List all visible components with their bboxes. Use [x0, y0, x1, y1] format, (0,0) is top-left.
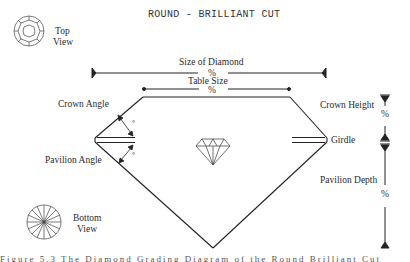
size-of-diamond-label: Size of Diamond: [179, 58, 243, 68]
bottom-view-label-line1: Bottom: [73, 214, 102, 224]
crown-angle-arc: [118, 115, 133, 136]
crown-angle-value: °: [132, 120, 135, 128]
bottom-view-label-line2: View: [77, 225, 97, 235]
table-size-value: %: [208, 86, 216, 96]
pavilion-angle-label: Pavilion Angle: [45, 156, 102, 166]
crown-height-label: Crown Height: [320, 101, 374, 111]
crown-height-value: %: [381, 110, 389, 120]
top-view-diamond-icon: [14, 16, 44, 46]
diagram-title: ROUND - BRILLIANT CUT: [148, 9, 280, 20]
diamond-profile-outline: [95, 97, 327, 248]
figure-caption-cutoff: Figure 5.3 The Diamond Grading Diagram o…: [0, 254, 410, 262]
table-size-dimension-line: [143, 88, 291, 91]
pavilion-depth-value: %: [381, 190, 389, 200]
pavilion-angle-arc: [119, 145, 133, 163]
diamond-side-icon: [196, 139, 230, 165]
crown-angle-label: Crown Angle: [58, 100, 109, 110]
girdle-label: Girdle: [331, 136, 355, 146]
bottom-view-diamond-icon: [27, 205, 61, 239]
top-view-label-line1: Top: [55, 27, 70, 37]
pavilion-angle-value: °: [132, 152, 135, 160]
pavilion-depth-label: Pavilion Depth: [320, 176, 377, 186]
top-view-label-line2: View: [53, 38, 73, 48]
